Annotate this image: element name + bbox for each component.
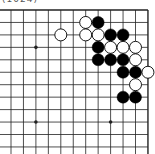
white-stone bbox=[55, 29, 67, 41]
white-stone bbox=[92, 29, 104, 41]
black-stone bbox=[105, 54, 117, 66]
black-stone bbox=[117, 91, 129, 103]
white-stone bbox=[80, 29, 92, 41]
go-board bbox=[0, 0, 155, 154]
star-point-icon bbox=[34, 46, 38, 50]
white-stone bbox=[130, 41, 142, 53]
black-stone bbox=[130, 91, 142, 103]
black-stone bbox=[92, 41, 104, 53]
white-stone bbox=[105, 41, 117, 53]
white-stone bbox=[142, 66, 154, 78]
white-stone bbox=[117, 41, 129, 53]
white-stone bbox=[130, 79, 142, 91]
black-stone bbox=[130, 66, 142, 78]
black-stone bbox=[117, 29, 129, 41]
black-stone bbox=[117, 66, 129, 78]
black-stone bbox=[92, 54, 104, 66]
black-stone bbox=[105, 29, 117, 41]
white-stone bbox=[80, 16, 92, 28]
star-point-icon bbox=[34, 120, 38, 124]
white-stone bbox=[130, 54, 142, 66]
black-stone bbox=[92, 16, 104, 28]
black-stone bbox=[117, 54, 129, 66]
star-point-icon bbox=[109, 120, 113, 124]
